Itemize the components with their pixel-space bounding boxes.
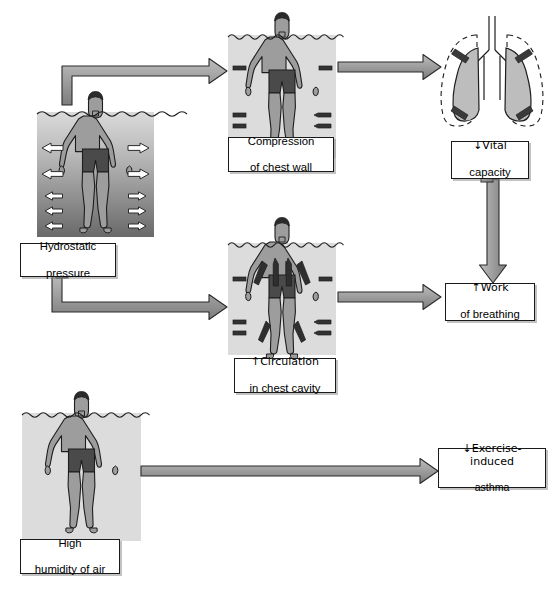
- edge-vital-capacity-to-work-of-breathing: [480, 179, 507, 283]
- outcome-work-of-breathing: ↑Work of breathing: [445, 283, 535, 321]
- edge-hydrostatic-to-compression: [62, 59, 227, 106]
- edge-compression-to-vital-capacity: [338, 55, 441, 80]
- caption-hydrostatic-pressure: Hydrostatic pressure: [20, 243, 116, 277]
- figure-lungs-compressed: [441, 16, 543, 126]
- caption-circulation-in-chest-cavity: ↑Circulation in chest cavity: [234, 358, 336, 393]
- outcome-exercise-induced-asthma: ↓Exercise-induced asthma: [438, 448, 546, 488]
- edge-humidity-to-asthma: [141, 459, 438, 484]
- diagram-canvas: Hydrostatic pressure Compression of ches…: [0, 0, 553, 599]
- caption-high-humidity-of-air: High humidity of air: [20, 539, 120, 574]
- edge-hydrostatic-to-circulation: [52, 274, 227, 320]
- figure-high-humidity: [22, 392, 150, 542]
- edge-circulation-to-work-of-breathing: [338, 285, 441, 310]
- caption-compression-of-chest-wall: Compression of chest wall: [228, 137, 334, 172]
- figure-circulation-chest-cavity: [228, 218, 344, 359]
- figure-hydrostatic-pressure: [37, 92, 187, 238]
- outcome-vital-capacity: ↓Vital capacity: [451, 141, 529, 179]
